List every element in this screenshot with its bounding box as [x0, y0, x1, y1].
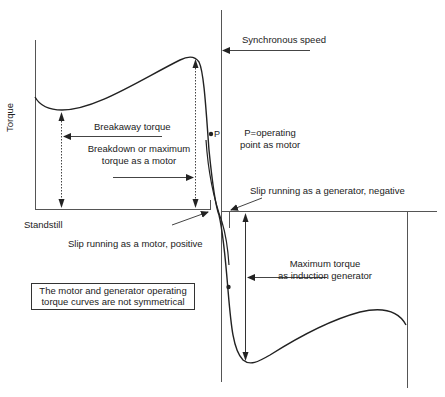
breakaway-arrowhead-up [59, 112, 65, 121]
motor-torque-curve [35, 57, 406, 363]
torque-speed-diagram [0, 0, 445, 397]
breakaway-torque-label: Breakaway torque [94, 121, 171, 133]
slip-generator-label: Slip running as a generator, negative [250, 185, 405, 197]
max-gen-torque-label: Maximum torque as induction generator [270, 258, 380, 282]
breakdown-torque-label: Breakdown or maximum torque as a motor [84, 143, 194, 167]
note-line1: The motor and generator operating [32, 285, 194, 296]
operating-point-line1: P=operating [236, 127, 304, 139]
breakdown-arrowhead-down [193, 199, 199, 208]
operating-point-marker-label: P [214, 128, 220, 140]
breakdown-torque-line1: Breakdown or maximum [84, 143, 194, 155]
slip-motor-arrow [172, 212, 208, 225]
max-gen-torque-line1: Maximum torque [270, 258, 380, 270]
operating-point-line2: point as motor [236, 139, 304, 151]
y-axis-label: Torque [4, 103, 15, 132]
axes [35, 10, 437, 388]
synchronous-speed-label: Synchronous speed [242, 34, 326, 46]
asymmetry-note-box: The motor and generator operating torque… [31, 283, 195, 310]
generator-arrowhead-up [243, 213, 249, 222]
generator-point-marker [226, 285, 230, 289]
standstill-label: Standstill [24, 219, 63, 231]
breakaway-arrowhead-down [59, 199, 65, 208]
max-gen-torque-line2: as induction generator [270, 270, 380, 282]
operating-point-marker [209, 132, 213, 136]
slip-motor-label: Slip running as a motor, positive [68, 238, 203, 250]
operating-point-label: P=operating point as motor [236, 127, 304, 151]
slip-generator-arrow [231, 198, 262, 210]
breakdown-torque-line2: torque as a motor [84, 155, 194, 167]
note-line2: torque curves are not symmetrical [32, 296, 194, 307]
